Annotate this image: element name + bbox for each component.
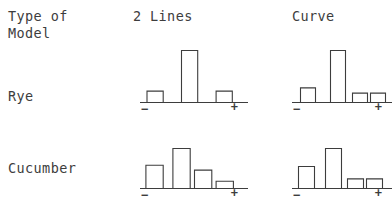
axis-label-minus: − — [141, 190, 148, 200]
row-label-rye: Rye — [8, 88, 34, 105]
axis-label-minus: − — [141, 104, 148, 114]
histogram-panel-cucumber-curve: −+ — [292, 148, 392, 191]
histogram-svg — [292, 50, 392, 105]
column-header-curve: Curve — [292, 8, 335, 25]
histogram-svg — [140, 148, 248, 191]
axis-label-plus: + — [231, 102, 238, 112]
axis-label-minus: − — [293, 190, 300, 200]
bar — [216, 91, 232, 102]
bar — [348, 179, 364, 189]
histogram-panel-rye-curve: −+ — [292, 50, 392, 105]
histogram-svg — [292, 148, 392, 191]
figure-container: Type of Model 2 Lines Curve Rye Cucumber… — [0, 0, 392, 215]
axis-label-minus: − — [293, 104, 300, 114]
row-label-cucumber: Cucumber — [8, 160, 76, 177]
histogram-panel-rye-2-lines: −+ — [140, 50, 248, 105]
axis-label-plus: + — [375, 188, 382, 198]
bar — [353, 93, 368, 102]
histogram-panel-cucumber-2-lines: −+ — [140, 148, 248, 191]
bar — [146, 165, 163, 188]
histogram-svg — [140, 50, 248, 105]
column-header-2-lines: 2 Lines — [133, 8, 193, 25]
bar — [147, 91, 163, 102]
bar — [173, 149, 190, 189]
bar — [331, 51, 346, 103]
bar — [326, 149, 342, 189]
bar — [299, 167, 315, 189]
bar — [301, 88, 316, 103]
bar — [182, 51, 198, 103]
axis-label-plus: + — [375, 102, 382, 112]
corner-stub-label: Type of Model — [8, 8, 68, 42]
bar — [195, 170, 212, 188]
axis-label-plus: + — [231, 188, 238, 198]
